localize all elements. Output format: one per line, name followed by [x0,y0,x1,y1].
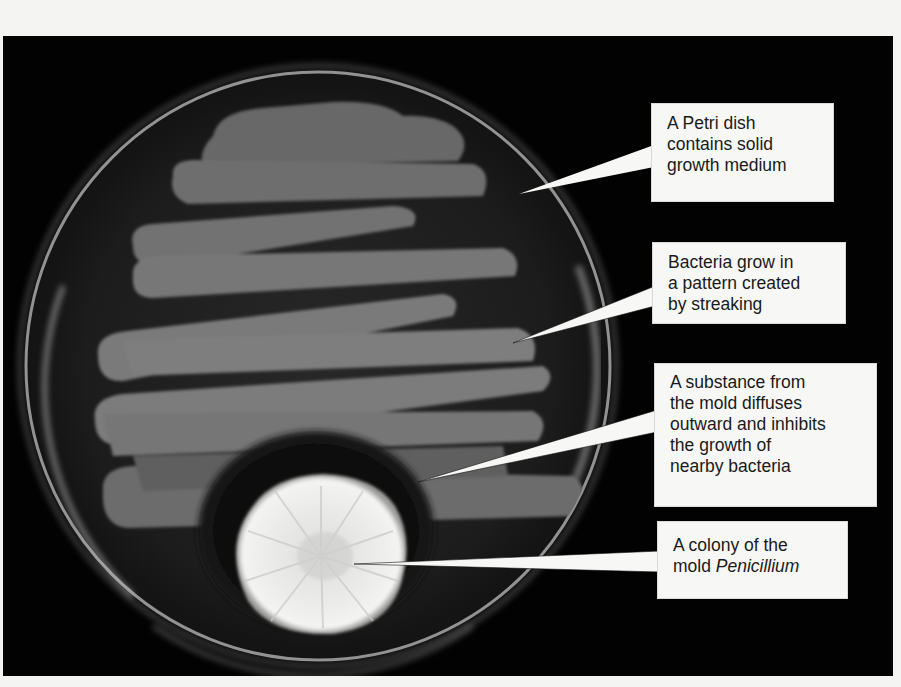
callout-petri-dish: A Petri dish contains solid growth mediu… [651,103,834,202]
callout-text-line: contains solid [667,134,820,155]
callout-text-line: Bacteria grow in [668,252,832,273]
penicillium-colony [236,474,407,634]
callout-text-genus-italic: Penicillium [716,556,800,576]
callout-text-line: A Petri dish [667,113,820,134]
callout-mold-colony: A colony of the mold Penicillium [657,521,848,599]
callout-text-line: growth medium [667,155,820,176]
callout-text-line: by streaking [668,294,832,315]
callout-bacteria-streaks: Bacteria grow in a pattern created by st… [652,242,846,324]
callout-text-line: the growth of [670,435,863,456]
petri-dish-figure: A Petri dish contains solid growth mediu… [0,0,901,687]
callout-text-line: outward and inhibits [670,414,863,435]
callout-text-line: a pattern created [668,273,832,294]
callout-inhibition-zone: A substance from the mold diffuses outwa… [654,363,877,507]
callout-text-line: the mold diffuses [670,393,863,414]
callout-text-line: mold Penicillium [673,556,834,577]
callout-text-mold: mold [673,556,716,576]
callout-text-line: A substance from [670,372,863,393]
callout-text-line: A colony of the [673,535,834,556]
callout-text-line: nearby bacteria [670,456,863,477]
